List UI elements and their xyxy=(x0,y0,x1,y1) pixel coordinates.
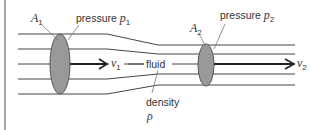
bernoulli-diagram: A1 pressurep1 A2 pressurep2 v1 fluid v2 … xyxy=(0,0,311,130)
cross-section-a1 xyxy=(50,34,70,94)
pressure2-label: pressurep2 xyxy=(220,8,275,24)
leader-density xyxy=(152,70,158,93)
area2-label: A2 xyxy=(189,21,202,37)
density-label: density xyxy=(146,96,180,108)
density-symbol: ρ xyxy=(146,109,153,123)
area1-label: A1 xyxy=(30,11,43,27)
diagram-frame: A1 pressurep1 A2 pressurep2 v1 fluid v2 … xyxy=(0,0,311,130)
leader-a1 xyxy=(42,25,58,40)
pressure1-label: pressurep1 xyxy=(76,11,131,27)
cross-section-a2 xyxy=(198,44,214,86)
fluid-label: fluid xyxy=(146,58,165,70)
leader-p1 xyxy=(68,25,79,40)
